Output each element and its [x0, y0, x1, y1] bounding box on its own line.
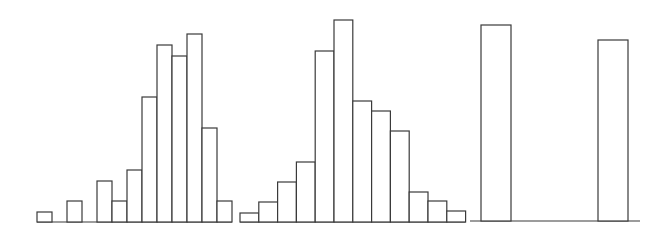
- histogram-bar: [598, 40, 628, 221]
- histogram-bar: [202, 128, 217, 222]
- histogram-bar: [296, 162, 315, 222]
- histogram-bar: [240, 213, 259, 222]
- histogram-bar: [97, 181, 112, 222]
- histogram-bar: [372, 111, 391, 222]
- histogram-bar: [278, 182, 297, 222]
- histogram-bar: [259, 202, 278, 222]
- histogram-bar: [37, 212, 52, 222]
- histogram-bar: [67, 201, 82, 222]
- histogram-bar: [127, 170, 142, 222]
- histogram-figure: [0, 0, 671, 235]
- histogram-bar: [112, 201, 127, 222]
- histogram-bar: [353, 101, 372, 222]
- histogram-symmetric: [240, 20, 466, 222]
- histogram-bar: [390, 131, 409, 222]
- histogram-bimodal: [470, 25, 640, 221]
- histogram-bar: [142, 97, 157, 222]
- histogram-left-skewed: [37, 34, 232, 222]
- histogram-bar: [481, 25, 511, 221]
- histogram-bar: [315, 51, 334, 222]
- histogram-bar: [409, 192, 428, 222]
- histogram-bar: [187, 34, 202, 222]
- histogram-bar: [157, 45, 172, 222]
- histogram-bar: [217, 201, 232, 222]
- histogram-bar: [334, 20, 353, 222]
- histogram-bar: [172, 56, 187, 222]
- histogram-bar: [428, 201, 447, 222]
- histogram-bar: [447, 211, 466, 222]
